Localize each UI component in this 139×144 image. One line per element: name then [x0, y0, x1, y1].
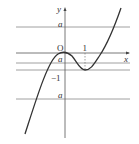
cubic-graph-diagram: y x O 1 −1 a a a	[0, 0, 139, 144]
label-a-middle: a	[58, 54, 63, 64]
label-a-bottom: a	[58, 90, 63, 100]
x-axis-label: x	[123, 54, 128, 64]
y-axis-label: y	[56, 4, 61, 14]
tick-label-x-one: 1	[83, 43, 88, 53]
origin-label: O	[57, 43, 64, 53]
label-a-top: a	[58, 19, 63, 29]
tick-label-y-minus-one: −1	[51, 73, 61, 83]
y-axis-arrow-icon	[64, 7, 67, 11]
